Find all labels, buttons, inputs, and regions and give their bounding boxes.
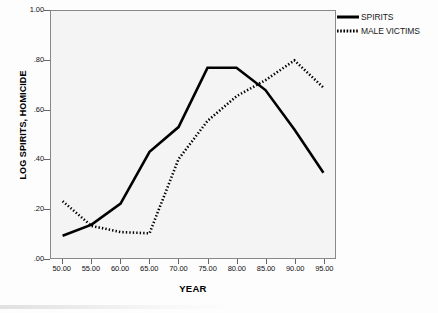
y-tick-label: .20 [4, 204, 44, 213]
y-tick-label: 1.00 [4, 5, 44, 14]
y-tick-label: .00 [4, 254, 44, 263]
series-line-spirits [63, 68, 324, 236]
x-tick-mark [237, 259, 238, 264]
scan-artifact [0, 305, 240, 309]
y-axis-title: LOG SPIRITS, HOMICIDE [18, 40, 28, 210]
series-line-male-victims [63, 60, 324, 233]
x-tick-mark [149, 259, 150, 264]
x-axis-title: YEAR [50, 283, 336, 294]
legend-dotted-line-icon [337, 26, 359, 36]
y-tick-label: .60 [4, 105, 44, 114]
y-tick-mark [44, 259, 50, 260]
plot-lines [51, 11, 335, 258]
legend-label-spirits: SPIRITS [361, 12, 393, 22]
plot-area [50, 10, 336, 259]
x-tick-mark [178, 259, 179, 264]
x-tick-mark [324, 259, 325, 264]
chart-legend: SPIRITS MALE VICTIMS [337, 10, 438, 38]
x-tick-mark [266, 259, 267, 264]
x-tick-mark [295, 259, 296, 264]
y-tick-label: .40 [4, 154, 44, 163]
x-tick-mark [208, 259, 209, 264]
legend-solid-line-icon [337, 12, 359, 22]
legend-item-male-victims: MALE VICTIMS [337, 24, 438, 37]
x-tick-mark [120, 259, 121, 264]
legend-label-male-victims: MALE VICTIMS [361, 26, 420, 36]
y-tick-label: .80 [4, 55, 44, 64]
x-tick-mark [62, 259, 63, 264]
legend-item-spirits: SPIRITS [337, 10, 438, 23]
chart-figure: LOG SPIRITS, HOMICIDE 1.00.80.60.40.20.0… [0, 0, 438, 313]
x-tick-label: 95.00 [304, 264, 344, 273]
x-tick-mark [91, 259, 92, 264]
